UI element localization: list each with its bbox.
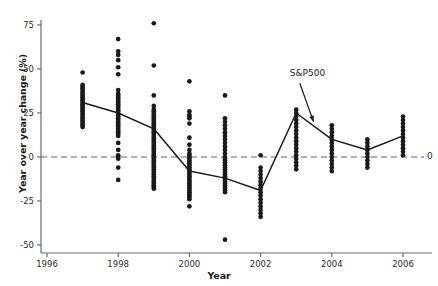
annotation-arrow: [300, 83, 314, 122]
axis-lines: [37, 20, 432, 257]
plot-canvas: [0, 0, 438, 286]
chart-figure: Year over year change (%) Year -50-25025…: [0, 0, 438, 286]
scatter-points: [80, 21, 405, 242]
sp500-trend-line: [83, 102, 403, 190]
